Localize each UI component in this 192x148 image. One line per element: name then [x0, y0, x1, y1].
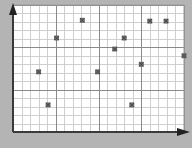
data-point-marker-icon: [164, 19, 168, 23]
data-point-marker-icon: [130, 103, 134, 107]
data-point-marker-icon: [182, 54, 186, 58]
data-point-marker-icon: [113, 47, 117, 51]
scatter-plot: [0, 0, 192, 148]
data-point-marker-icon: [122, 36, 126, 40]
data-point-marker-icon: [80, 18, 84, 22]
data-point-marker-icon: [139, 62, 143, 66]
data-point-marker-icon: [37, 70, 41, 74]
data-point-marker-icon: [55, 36, 59, 40]
data-point-marker-icon: [148, 19, 152, 23]
data-point-marker-icon: [96, 70, 100, 74]
data-point-marker-icon: [46, 103, 50, 107]
